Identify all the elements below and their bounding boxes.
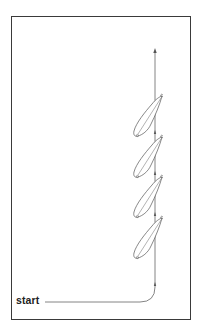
arrow-up-icon <box>154 171 156 175</box>
boat-hull-icon <box>134 218 162 258</box>
arrow-up-icon <box>154 282 156 286</box>
boat-keel-line <box>138 139 161 175</box>
boat-1 <box>134 96 162 137</box>
boat-keel-line <box>138 98 161 134</box>
boat-hull-icon <box>134 137 162 177</box>
bow-marks <box>160 94 163 219</box>
boat-keel-line <box>138 179 161 215</box>
start-label: start <box>16 294 39 306</box>
boat-keel-line <box>138 220 161 256</box>
boat-4 <box>134 218 162 259</box>
boat-hull-icon <box>134 96 162 136</box>
boat-2 <box>134 137 162 178</box>
arrow-up-icon <box>154 130 156 134</box>
course-diagram <box>0 0 207 330</box>
boat-hull-icon <box>134 177 162 217</box>
arrow-up-icon <box>154 212 156 216</box>
boat-3 <box>134 177 162 218</box>
arrow-up-icon <box>153 48 156 53</box>
